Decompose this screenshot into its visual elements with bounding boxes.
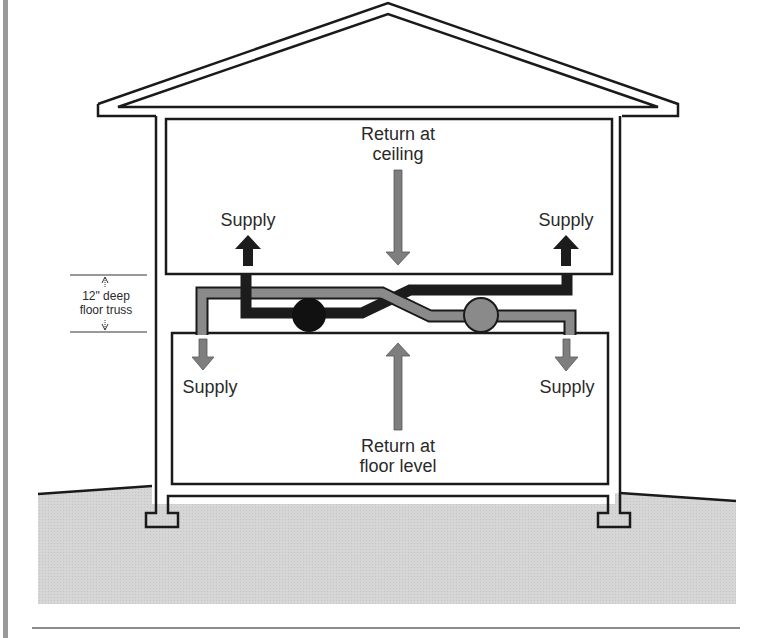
label-line: 12" deep — [70, 290, 142, 304]
roof-outer-right — [98, 3, 678, 116]
ground — [38, 486, 736, 604]
supply-upper-right-label: Supply — [526, 210, 606, 230]
hvac-diagram: Return at ceiling Return at floor level … — [0, 0, 764, 638]
return-floor-label: Return at floor level — [340, 436, 456, 476]
left-border — [3, 0, 8, 638]
supply-lower-left-label: Supply — [170, 377, 250, 397]
diagram-canvas — [0, 0, 764, 638]
label-line: floor truss — [70, 304, 142, 318]
return-ceiling-label: Return at ceiling — [348, 124, 448, 164]
label-line: floor level — [340, 456, 456, 476]
supply-lower-right-label: Supply — [527, 377, 607, 397]
truss-depth-label: 12" deep floor truss — [70, 290, 142, 318]
supply-fan — [292, 298, 326, 332]
attic — [118, 14, 658, 107]
label-line: Return at — [340, 436, 456, 456]
label-line: ceiling — [348, 144, 448, 164]
label-line: Return at — [348, 124, 448, 144]
return-fan — [464, 298, 498, 332]
supply-upper-left-label: Supply — [208, 210, 288, 230]
